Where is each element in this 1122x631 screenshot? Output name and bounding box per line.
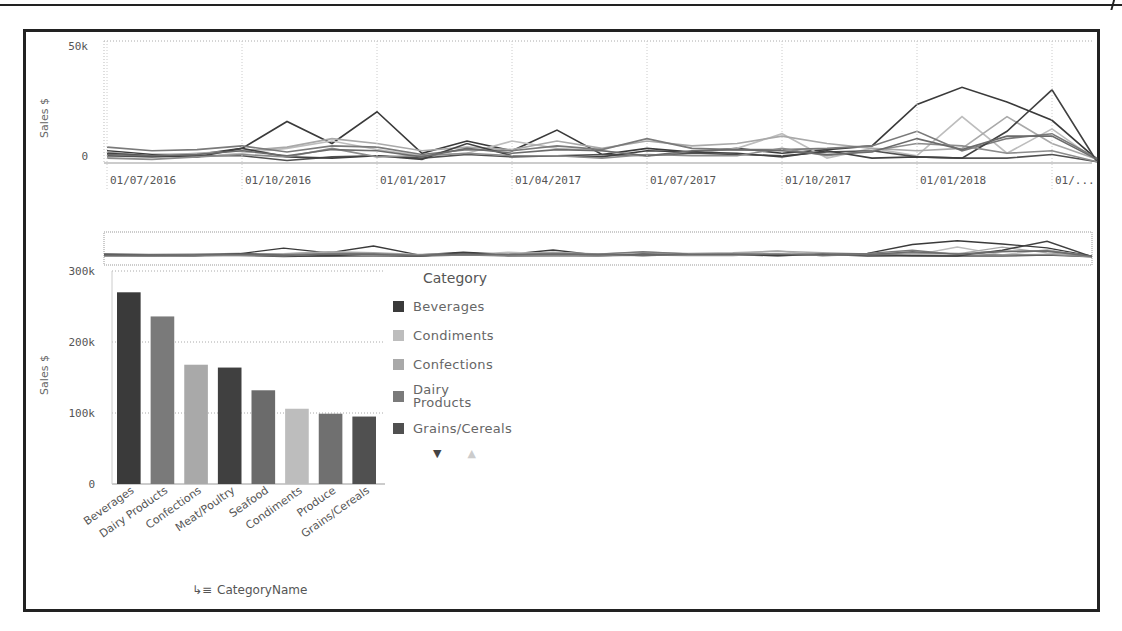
- bar-y-tick: 200k: [69, 336, 96, 349]
- x-tick-label: 01/01/2018: [920, 174, 986, 187]
- legend-swatch: [393, 391, 404, 402]
- bar-y-axis-label: Sales $: [38, 355, 51, 395]
- x-tick-label: 01/07/2017: [650, 174, 716, 187]
- legend-swatch: [393, 359, 404, 370]
- dimension-label: CategoryName: [217, 583, 307, 597]
- legend-label: Grains/Cereals: [413, 422, 512, 435]
- legend-swatch: [393, 423, 404, 434]
- line-y-axis-label: Sales $: [38, 98, 51, 138]
- bar-condiments[interactable]: [285, 409, 309, 484]
- bar-x-axis: BeveragesDairy ProductsConfectionsMeat/P…: [81, 484, 372, 541]
- legend-swatch: [393, 330, 404, 341]
- bar-beverages[interactable]: [117, 292, 141, 484]
- legend-item-condiments[interactable]: Condiments: [393, 325, 553, 345]
- line-y-tick-0: 0: [81, 150, 88, 163]
- legend-item-dairy-products[interactable]: Dairy Products: [393, 383, 553, 409]
- legend-pager: ▼ ▲: [433, 447, 553, 460]
- line-series-group: [107, 87, 1097, 161]
- bar-grains-cereals[interactable]: [352, 417, 376, 484]
- legend-label: Dairy Products: [413, 383, 473, 409]
- legend-label: Confections: [413, 358, 493, 371]
- x-tick-label: 01/07/2016: [110, 174, 176, 187]
- bar-y-tick: 0: [88, 478, 95, 491]
- line-chart[interactable]: Sales $ 50k 0 01/07/201601/10/201601/01/…: [0, 0, 1122, 631]
- mini-chart-scroll-range[interactable]: [104, 232, 1092, 265]
- sort-dimension-icon[interactable]: ↳≡: [192, 583, 212, 597]
- x-tick-label: 01/10/2016: [245, 174, 311, 187]
- legend-scroll-up-icon[interactable]: ▲: [467, 447, 475, 460]
- legend-item-confections[interactable]: Confections: [393, 354, 553, 374]
- legend-label: Condiments: [413, 329, 494, 342]
- category-legend: Category Beverages Condiments Confection…: [393, 270, 553, 460]
- dimension-selector[interactable]: ↳≡ CategoryName: [192, 583, 307, 597]
- legend-item-beverages[interactable]: Beverages: [393, 296, 553, 316]
- bar-y-tick: 100k: [69, 407, 96, 420]
- legend-swatch: [393, 301, 404, 312]
- legend-title: Category: [423, 270, 553, 286]
- bar-y-tick: 300k: [69, 265, 96, 278]
- legend-scroll-down-icon[interactable]: ▼: [433, 447, 441, 460]
- bar-dairy-products[interactable]: [151, 316, 175, 484]
- x-tick-label: 01/01/2017: [380, 174, 446, 187]
- line-x-axis: 01/07/201601/10/201601/01/201701/04/2017…: [107, 41, 1095, 190]
- bar-produce[interactable]: [319, 414, 343, 484]
- bar-meat-poultry[interactable]: [218, 368, 242, 484]
- x-tick-label: 01/...: [1055, 174, 1095, 187]
- legend-item-grains-cereals[interactable]: Grains/Cereals: [393, 418, 553, 438]
- line-y-tick-50k: 50k: [68, 40, 88, 53]
- x-tick-label: 01/10/2017: [785, 174, 851, 187]
- bar-seafood[interactable]: [252, 390, 276, 484]
- bar-confections[interactable]: [184, 365, 208, 484]
- legend-label: Beverages: [413, 300, 485, 313]
- x-tick-label: 01/04/2017: [515, 174, 581, 187]
- bar-series: [117, 292, 376, 484]
